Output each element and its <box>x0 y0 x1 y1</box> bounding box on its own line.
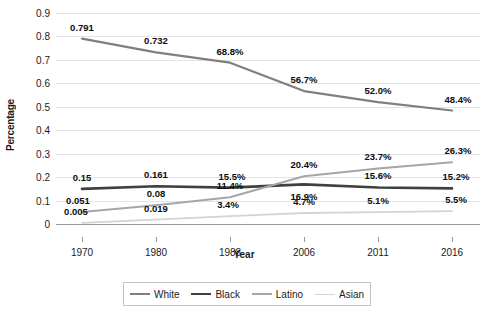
legend-label: Black <box>215 289 239 300</box>
data-label: 0.005 <box>64 206 88 217</box>
data-label: 26.3% <box>445 145 472 156</box>
y-axis-tick-label: 0.5 <box>4 101 50 112</box>
legend-label: Asian <box>339 289 364 300</box>
data-label: 0.051 <box>66 195 90 206</box>
y-axis-tick-label: 0 <box>4 219 50 230</box>
legend-swatch-icon <box>252 293 272 295</box>
plot-area: 0.7910.73268.8%56.7%52.0%48.4%0.150.1611… <box>56 13 480 224</box>
legend-item-white[interactable]: White <box>130 289 180 300</box>
y-axis-tick-label: 0.7 <box>4 54 50 65</box>
data-label: 15.6% <box>365 170 392 181</box>
y-axis-tick-label: 0.8 <box>4 31 50 42</box>
y-axis-tick-label: 0.9 <box>4 8 50 19</box>
data-label: 56.7% <box>291 74 318 85</box>
legend-item-latino[interactable]: Latino <box>252 289 303 300</box>
x-axis-tick-mark <box>304 237 305 242</box>
legend-swatch-icon <box>191 293 211 295</box>
data-label: 0.161 <box>144 169 168 180</box>
data-label: 5.1% <box>367 195 389 206</box>
data-label: 68.8% <box>217 46 244 57</box>
data-label: 0.08 <box>147 188 166 199</box>
x-axis-tick-mark <box>156 237 157 242</box>
chart-legend: WhiteBlackLatinoAsian <box>123 282 371 306</box>
line-chart: Percentage 0.7910.73268.8%56.7%52.0%48.4… <box>0 0 488 316</box>
legend-item-black[interactable]: Black <box>191 289 239 300</box>
data-label: 20.4% <box>291 159 318 170</box>
y-axis-tick-label: 0.1 <box>4 195 50 206</box>
series-lines <box>56 13 480 224</box>
x-axis-line <box>56 224 480 225</box>
series-line-asian <box>82 211 452 223</box>
y-axis-tick-label: 0.2 <box>4 172 50 183</box>
y-axis-tick-label: 0.6 <box>4 78 50 89</box>
data-label: 23.7% <box>365 151 392 162</box>
data-label: 3.4% <box>217 199 239 210</box>
data-label: 0.019 <box>144 203 168 214</box>
x-axis-tick-mark <box>82 237 83 242</box>
y-axis-tick-label: 0.3 <box>4 148 50 159</box>
data-label: 52.0% <box>365 85 392 96</box>
data-label: 0.732 <box>144 35 168 46</box>
x-axis-tick-mark <box>378 237 379 242</box>
series-line-white <box>82 39 452 111</box>
legend-label: White <box>154 289 180 300</box>
x-axis-title: Year <box>0 249 488 260</box>
legend-swatch-icon <box>130 293 150 295</box>
data-label: 0.791 <box>70 22 94 33</box>
data-label: 15.2% <box>443 171 470 182</box>
legend-item-asian[interactable]: Asian <box>315 289 364 300</box>
legend-swatch-icon <box>315 294 335 295</box>
x-axis-tick-mark <box>452 237 453 242</box>
x-axis-tick-mark <box>230 237 231 242</box>
data-label: 4.7% <box>293 196 315 207</box>
y-axis-tick-label: 0.4 <box>4 125 50 136</box>
legend-label: Latino <box>276 289 303 300</box>
data-label: 5.5% <box>445 194 467 205</box>
data-label: 48.4% <box>445 94 472 105</box>
data-label: 11.4% <box>217 180 243 191</box>
data-label: 0.15 <box>73 172 92 183</box>
